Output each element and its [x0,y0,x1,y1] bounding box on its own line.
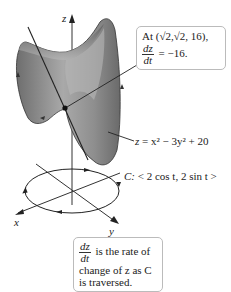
curve-label-param: < 2 cos t, 2 sin t > [138,170,217,182]
curve-label: C: < 2 cos t, 2 sin t > [124,170,217,182]
point-callout: At (√2,√2, 16), dz dt = −16. [136,26,226,70]
point-callout-derivative-value: = −16. [159,47,188,59]
explanation-line2: change of z as C [79,264,157,276]
explanation-callout: dz dt is the rate of change of z as C is… [73,237,163,292]
surface-equation-lhs: z [135,135,139,147]
dz-dt-fraction: dz dt [79,241,91,264]
point-callout-line1: At (√2,√2, 16), [142,30,220,42]
x-axis-label: x [14,216,19,228]
y-axis-label: y [109,225,114,237]
saddle-surface [16,19,124,165]
explanation-line3: is traversed. [79,276,157,288]
surface-equation-rhs: = x² − 3y² + 20 [142,135,208,147]
explanation-line1: dz dt is the rate of [79,241,157,264]
surface-point [62,105,67,110]
surface-equation-label: z = x² − 3y² + 20 [135,135,209,147]
z-axis-label: z [62,12,66,24]
explanation-line1-rest: is the rate of [96,245,151,257]
point-callout-derivative: dz dt = −16. [142,43,220,66]
xy-axes [15,164,120,224]
curve-label-prefix: C: [124,170,135,182]
dz-dt-fraction: dz dt [142,43,154,66]
